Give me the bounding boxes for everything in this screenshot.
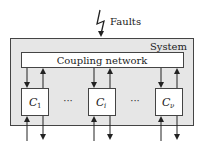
ellipsis-1: ··· (63, 95, 73, 106)
system-label: System (150, 41, 188, 52)
svg-text:i: i (104, 102, 106, 110)
component-c1: C 1 (22, 89, 49, 116)
coupling-network-label: Coupling network (57, 55, 149, 66)
diagram-canvas: System Faults Coupling network C 1 C i C… (0, 0, 199, 141)
component-ci: C i (89, 89, 116, 116)
lightning-icon (97, 10, 104, 37)
faults-label: Faults (110, 16, 141, 27)
svg-text:1: 1 (37, 102, 41, 110)
svg-text:ν: ν (170, 102, 175, 110)
ellipsis-2: ··· (130, 95, 140, 106)
component-cnu: C ν (156, 89, 183, 116)
